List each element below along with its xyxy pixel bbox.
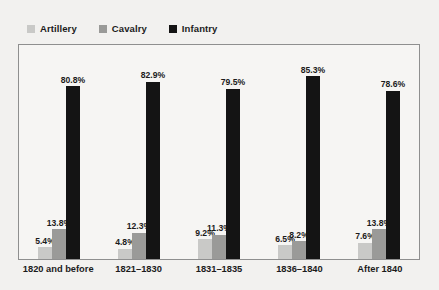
bar-infantry[interactable]: 78.6% — [386, 45, 400, 259]
bar-rect — [132, 233, 146, 259]
plot-area: 5.4%13.8%80.8%4.8%12.3%82.9%9.2%11.3%79.… — [19, 45, 419, 259]
x-tick-label: 1836–1840 — [259, 264, 339, 274]
legend-item-cavalry: Cavalry — [99, 24, 147, 34]
bar-value-label: 80.8% — [61, 76, 85, 85]
legend-item-artillery: Artillery — [27, 24, 77, 34]
bar-rect — [278, 245, 292, 259]
bar-rect — [66, 86, 80, 259]
x-tick-label: 1820 and before — [18, 264, 98, 274]
legend-label-infantry: Infantry — [182, 24, 218, 34]
bar-value-label: 79.5% — [221, 78, 245, 87]
x-axis-labels: 1820 and before1821–18301831–18351836–18… — [18, 264, 420, 274]
bar-cavalry[interactable]: 8.2% — [292, 45, 306, 259]
bar-value-label: 85.3% — [301, 66, 325, 75]
bar-chart: Artillery Cavalry Infantry 5.4%13.8%80.8… — [0, 0, 439, 290]
bar-rect — [146, 82, 160, 259]
bar-artillery[interactable]: 6.5% — [278, 45, 292, 259]
chart-legend: Artillery Cavalry Infantry — [27, 22, 217, 36]
bar-rect — [52, 229, 66, 259]
legend-swatch-cavalry — [99, 25, 107, 33]
bar-rect — [358, 243, 372, 259]
plot-frame: 5.4%13.8%80.8%4.8%12.3%82.9%9.2%11.3%79.… — [18, 44, 420, 260]
bar-cavalry[interactable]: 13.8% — [372, 45, 386, 259]
x-tick-label: 1821–1830 — [98, 264, 178, 274]
bar-group: 5.4%13.8%80.8% — [19, 45, 99, 259]
bar-value-label: 82.9% — [141, 71, 165, 80]
bar-rect — [292, 241, 306, 259]
bar-infantry[interactable]: 79.5% — [226, 45, 240, 259]
legend-label-cavalry: Cavalry — [112, 24, 147, 34]
x-tick-label: 1831–1835 — [179, 264, 259, 274]
bar-rect — [306, 76, 320, 259]
bar-group: 7.6%13.8%78.6% — [339, 45, 419, 259]
bar-rect — [386, 91, 400, 259]
bar-group: 6.5%8.2%85.3% — [259, 45, 339, 259]
bar-value-label: 78.6% — [381, 80, 405, 89]
bar-rect — [198, 239, 212, 259]
bar-group: 4.8%12.3%82.9% — [99, 45, 179, 259]
bar-rect — [38, 247, 52, 259]
bar-infantry[interactable]: 80.8% — [66, 45, 80, 259]
x-tick-label: After 1840 — [340, 264, 420, 274]
bar-rect — [226, 89, 240, 259]
bar-rect — [372, 229, 386, 259]
bar-rect — [212, 235, 226, 259]
legend-swatch-artillery — [27, 25, 35, 33]
bar-infantry[interactable]: 82.9% — [146, 45, 160, 259]
bar-infantry[interactable]: 85.3% — [306, 45, 320, 259]
bar-rect — [118, 249, 132, 259]
legend-label-artillery: Artillery — [40, 24, 77, 34]
legend-item-infantry: Infantry — [169, 24, 218, 34]
bar-group: 9.2%11.3%79.5% — [179, 45, 259, 259]
legend-swatch-infantry — [169, 25, 177, 33]
